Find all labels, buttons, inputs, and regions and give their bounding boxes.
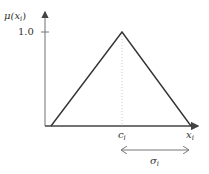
triangle-membership-curve — [51, 32, 191, 126]
membership-function-diagram: μ(xi) 1.0 ci xi σi — [0, 0, 209, 174]
center-label: ci — [118, 129, 126, 142]
y-axis-label: μ(xi) — [4, 10, 26, 23]
y-tick-label: 1.0 — [18, 26, 34, 37]
sigma-label: σi — [150, 155, 159, 168]
x-axis-label: xi — [186, 129, 194, 142]
